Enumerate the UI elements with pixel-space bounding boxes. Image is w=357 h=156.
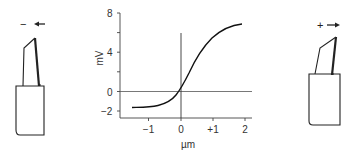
right-hair-cell: +: [309, 19, 340, 125]
cell-body-icon: [309, 74, 340, 125]
left-hair-cell: −: [16, 18, 45, 135]
hair-bundle-icon: [23, 38, 41, 86]
x-axis-title: µm: [181, 139, 195, 150]
negative-sign: −: [20, 18, 26, 30]
arrow-left-icon: [34, 22, 45, 27]
positive-sign: +: [317, 19, 323, 31]
x-tick-label: +1: [207, 124, 219, 135]
hair-bundle-icon: [315, 37, 336, 75]
figure-canvas: − 8 4 0 −2 mV −1 0 +1: [0, 0, 357, 156]
y-tick-label: 0: [107, 87, 113, 98]
response-curve: [132, 24, 242, 108]
response-chart: 8 4 0 −2 mV −1 0 +1 2 µm: [94, 8, 252, 150]
y-tick-label: 8: [107, 8, 113, 19]
y-tick-label: −2: [101, 106, 113, 117]
x-tick-label: 0: [178, 124, 184, 135]
y-axis-title: mV: [94, 50, 105, 65]
y-tick-label: 4: [107, 47, 113, 58]
x-tick-label: 2: [242, 124, 248, 135]
x-tick-label: −1: [143, 124, 155, 135]
arrow-right-icon: [327, 23, 340, 28]
cell-body-icon: [16, 86, 44, 135]
